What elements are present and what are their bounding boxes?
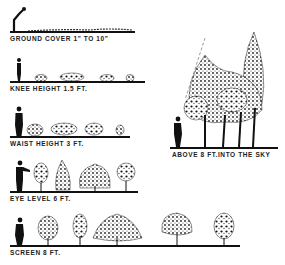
person-standing-icon <box>174 117 182 147</box>
ground-line-eye-level <box>10 191 138 193</box>
waist-height-shrubs <box>27 123 124 136</box>
person-pointing-icon <box>16 161 30 191</box>
person-standing-icon <box>15 218 24 245</box>
label-above-8ft: ABOVE 8 FT.INTO THE SKY <box>172 151 271 158</box>
person-bending-icon <box>14 7 26 31</box>
label-eye-level: EYE LEVEL 6 FT. <box>10 195 71 202</box>
ground-line-waist-height <box>10 136 130 138</box>
tall-trees <box>184 32 264 147</box>
person-standing-icon <box>15 107 23 136</box>
label-waist-height: WAIST HEIGHT 3 FT. <box>10 140 84 147</box>
ground-line-screen <box>10 245 240 247</box>
label-knee-height: KNEE HEIGHT 1.5 FT. <box>10 85 88 92</box>
person-standing-icon <box>17 58 21 81</box>
ground-line-ground-cover <box>10 31 135 33</box>
label-screen: SCREEN 8 FT. <box>10 249 61 256</box>
ground-line-knee-height <box>10 81 145 83</box>
ground-line-above-8ft <box>170 147 278 149</box>
eye-level-shrubs <box>34 160 135 191</box>
screen-shrubs <box>38 213 234 245</box>
label-ground-cover: GROUND COVER 1" TO 10" <box>10 35 108 42</box>
